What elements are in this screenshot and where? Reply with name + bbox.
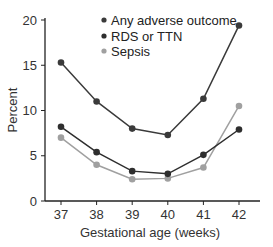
data-point — [93, 98, 100, 105]
line-chart: 05101520 373839404142 Any adverse outcom… — [0, 0, 273, 247]
data-point — [58, 59, 65, 66]
data-point — [200, 164, 207, 171]
legend-marker-icon — [101, 17, 106, 22]
x-tick-label: 40 — [161, 207, 175, 222]
legend-item: Sepsis — [101, 44, 150, 59]
legend-label: Any adverse outcome — [111, 13, 237, 28]
series-line — [61, 127, 239, 174]
y-tick-label: 15 — [23, 58, 37, 73]
y-tick-label: 5 — [30, 148, 37, 163]
data-point — [129, 176, 136, 183]
x-axis: 373839404142 — [45, 201, 260, 222]
x-tick-label: 38 — [89, 207, 103, 222]
data-point — [129, 168, 136, 175]
data-point — [165, 171, 172, 178]
data-point — [129, 125, 136, 132]
data-point — [58, 123, 65, 130]
y-tick-label: 10 — [23, 103, 37, 118]
data-point — [165, 132, 172, 139]
legend: Any adverse outcomeRDS or TTNSepsis — [101, 13, 236, 59]
y-axis-title: Percent — [5, 87, 20, 132]
legend-marker-icon — [101, 33, 106, 38]
data-point — [93, 162, 100, 169]
legend-item: RDS or TTN — [101, 29, 182, 44]
y-tick-label: 20 — [23, 13, 37, 28]
data-point — [236, 126, 243, 133]
x-tick-label: 37 — [54, 207, 68, 222]
legend-label: RDS or TTN — [111, 29, 182, 44]
data-point — [236, 103, 243, 110]
data-point — [200, 95, 207, 102]
y-tick-label: 0 — [30, 194, 37, 209]
data-point — [58, 134, 65, 141]
data-point — [200, 152, 207, 159]
series-sepsis — [58, 103, 243, 183]
data-point — [93, 149, 100, 156]
x-tick-label: 39 — [125, 207, 139, 222]
x-tick-label: 41 — [196, 207, 210, 222]
chart-canvas: 05101520 373839404142 Any adverse outcom… — [0, 0, 273, 247]
x-tick-label: 42 — [232, 207, 246, 222]
legend-label: Sepsis — [111, 44, 151, 59]
legend-item: Any adverse outcome — [101, 13, 236, 28]
x-axis-title: Gestational age (weeks) — [80, 225, 220, 240]
series-line — [61, 106, 239, 179]
legend-marker-icon — [101, 48, 106, 53]
y-axis: 05101520 — [23, 13, 45, 209]
